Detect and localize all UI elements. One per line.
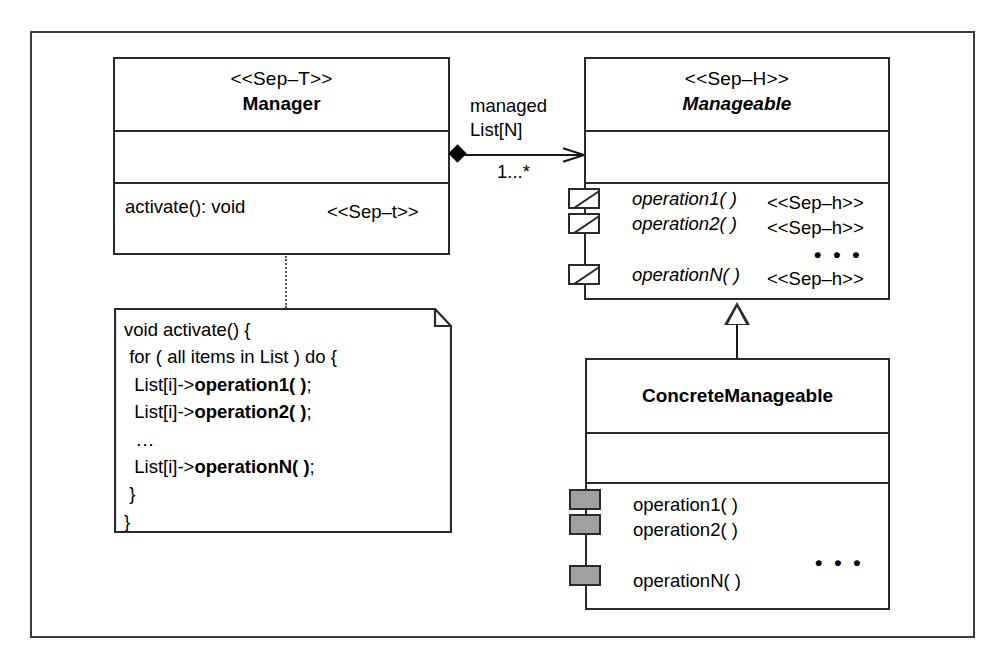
note-box[interactable]: void activate() { for ( all items in Lis… [114,308,452,533]
association-multiplicity: 1...* [497,161,530,183]
manageable-operation-stereotype: <<Sep–h>> [767,217,864,239]
association-line [462,154,584,156]
class-box-manageable[interactable]: <<Sep–H>> Manageable operation1( ) <<Sep… [584,57,890,300]
manager-operation-stereotype: <<Sep–t>> [327,201,419,223]
implementation-port-operation1-icon[interactable] [569,489,601,510]
generalization-line [736,325,738,359]
class-box-manager[interactable]: <<Sep–T>> Manager activate(): void <<Sep… [113,57,450,255]
implementation-port-operation2-icon[interactable] [569,514,601,535]
interface-port-operationN-icon[interactable] [568,264,600,285]
manager-header: <<Sep–T>> Manager [115,59,448,130]
note-line-2: for ( all items in List ) do { [124,346,337,367]
concrete-operation-row[interactable]: operation2( ) [633,517,888,543]
manager-attributes-compartment [115,130,448,182]
note-line-6-call: operationN( ) [194,456,309,477]
note-line-4-call: operation2( ) [194,401,306,422]
association-role-line2: List[N] [470,118,547,142]
note-line-7: } [124,483,135,504]
manageable-operation-label: operation2( ) [632,213,737,235]
class-box-concretemanageable[interactable]: ConcreteManageable operation1( ) operati… [585,358,890,610]
note-line-3-suffix: ; [306,374,311,395]
concrete-class-name: ConcreteManageable [587,383,888,408]
interface-port-operation1-icon[interactable] [568,188,600,209]
association-role-label: managed List[N] [470,94,547,141]
note-line-4-suffix: ; [306,401,311,422]
manager-class-name: Manager [115,91,448,116]
manager-operation-label: activate(): void [125,196,245,218]
note-line-3-prefix: List[i]-> [124,374,194,395]
concrete-attributes-compartment [587,432,888,482]
manageable-operations-compartment: operation1( ) <<Sep–h>> operation2( ) <<… [586,182,888,298]
note-line-6-suffix: ; [310,456,315,477]
concrete-operation-label: operationN( ) [633,570,741,592]
manager-stereotype: <<Sep–T>> [115,66,448,91]
note-anchor-line [285,256,287,308]
manageable-operation-label: operation1( ) [632,188,737,210]
diagram-canvas: <<Sep–T>> Manager activate(): void <<Sep… [0,0,1007,667]
note-line-1: void activate() { [124,319,250,340]
note-line-4-prefix: List[i]-> [124,401,194,422]
concrete-operation-label: operation1( ) [633,494,738,516]
manageable-operation-label: operationN( ) [632,264,740,286]
interface-port-operation2-icon[interactable] [568,213,600,234]
manageable-attributes-compartment [586,130,888,182]
concrete-operation-label: operation2( ) [633,519,738,541]
manageable-operation-stereotype: <<Sep–h>> [767,268,864,290]
note-line-3-call: operation1( ) [194,374,306,395]
manageable-header: <<Sep–H>> Manageable [586,59,888,130]
manageable-class-name: Manageable [586,91,888,116]
note-line-5-ellipsis: ... [124,429,155,450]
generalization-triangle-icon [724,302,750,325]
concrete-operation-row[interactable]: operationN( ) [633,568,888,594]
concrete-operation-row[interactable]: operation1( ) [633,492,888,518]
concrete-operations-compartment: operation1( ) operation2( ) • • • operat… [587,482,888,608]
manager-operations-compartment: activate(): void <<Sep–t>> [115,182,448,253]
manageable-stereotype: <<Sep–H>> [586,66,888,91]
association-role-line1: managed [470,94,547,118]
concrete-header: ConcreteManageable [587,360,888,432]
note-line-6-prefix: List[i]-> [124,456,194,477]
implementation-port-operationN-icon[interactable] [569,565,601,586]
note-line-8: } [124,511,130,532]
note-code-body: void activate() { for ( all items in Lis… [124,316,444,535]
